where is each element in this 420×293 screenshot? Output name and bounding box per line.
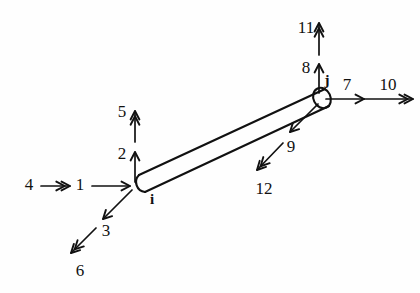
dof-label-9: 9 [287, 137, 296, 156]
frame-element-diagram: i j 123456789101112 [0, 0, 420, 293]
beam-bottom-edge [145, 106, 329, 192]
dof-arrow-layer [41, 23, 413, 253]
dof-arrow-12 [257, 143, 283, 170]
dof-arrow-5 [131, 111, 140, 142]
dof-arrow-1 [92, 182, 130, 191]
dof-arrow-6 [71, 228, 96, 253]
dof-arrow-9 [290, 104, 318, 132]
beam-member [136, 89, 329, 192]
dof-label-5: 5 [118, 102, 127, 121]
dof-arrow-11 [315, 23, 324, 55]
dof-label-10: 10 [380, 75, 397, 94]
node-j: j [310, 72, 334, 111]
dof-arrow-3 [103, 190, 132, 219]
dof-label-12: 12 [256, 179, 273, 198]
node-j-section [310, 85, 334, 111]
node-j-label: j [324, 72, 330, 88]
beam-top-edge [139, 89, 325, 175]
dof-arrow-10 [362, 95, 413, 104]
node-i: i [150, 191, 154, 207]
dof-label-4: 4 [25, 175, 34, 194]
figure-canvas: i j 123456789101112 [0, 0, 420, 293]
dof-label-7: 7 [343, 75, 352, 94]
dof-label-2: 2 [118, 144, 127, 163]
dof-label-8: 8 [302, 58, 311, 77]
node-i-label: i [150, 191, 154, 207]
dof-label-1: 1 [76, 175, 85, 194]
beam-cap-i [136, 175, 145, 192]
dof-label-11: 11 [298, 18, 314, 37]
dof-label-3: 3 [102, 221, 111, 240]
dof-arrow-4 [41, 182, 70, 191]
dof-label-layer: 123456789101112 [25, 18, 397, 280]
dof-label-6: 6 [76, 261, 85, 280]
dof-arrow-7 [326, 95, 364, 104]
